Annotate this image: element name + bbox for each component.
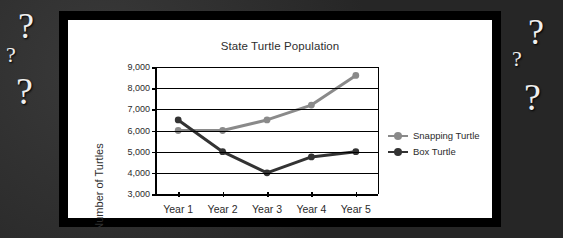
y-axis-tick-label: 3,000	[127, 189, 150, 199]
data-point-marker	[352, 72, 359, 79]
y-axis-tick-label: 8,000	[127, 83, 150, 93]
question-mark-icon: ?	[512, 48, 522, 70]
y-axis-tick-label: 4,000	[127, 168, 150, 178]
y-axis-tick-label: 9,000	[127, 62, 150, 72]
y-axis-tick-label: 7,000	[127, 104, 150, 114]
y-axis-tick	[152, 173, 157, 175]
question-mark-icon: ?	[528, 14, 544, 50]
x-axis-tick-label: Year 3	[252, 203, 282, 215]
x-axis-tick	[178, 192, 180, 197]
legend-label: Box Turtle	[413, 146, 456, 157]
legend-label: Snapping Turtle	[413, 130, 480, 141]
x-axis-tick-label: Year 1	[163, 203, 193, 215]
question-mark-icon: ?	[16, 72, 33, 110]
data-point-marker	[308, 154, 315, 161]
y-axis-tick-label: 6,000	[127, 126, 150, 136]
x-axis-tick	[356, 192, 358, 197]
y-axis-tick	[152, 67, 157, 69]
chart-legend: Snapping TurtleBox Turtle	[388, 130, 480, 162]
data-point-marker	[264, 117, 271, 124]
gridline	[156, 152, 378, 153]
question-mark-icon: ?	[18, 8, 34, 44]
chart-frame: State Turtle Population Number of Turtle…	[60, 12, 500, 226]
series-line	[178, 120, 356, 173]
question-mark-icon: ?	[6, 44, 16, 66]
x-axis-tick-label: Year 5	[341, 203, 371, 215]
y-axis-tick	[152, 131, 157, 133]
x-axis-tick-label: Year 4	[296, 203, 326, 215]
chart-card: State Turtle Population Number of Turtle…	[68, 20, 492, 218]
x-axis-tick	[223, 192, 225, 197]
gridline	[156, 173, 378, 174]
x-axis-tick	[311, 192, 313, 197]
y-axis-title-text: Number of Turtles	[93, 143, 105, 230]
data-point-marker	[175, 117, 182, 124]
gridline	[156, 88, 378, 89]
x-axis-tick-label: Year 2	[208, 203, 238, 215]
y-axis-tick	[152, 88, 157, 90]
chart-title: State Turtle Population	[68, 40, 492, 52]
legend-item: Box Turtle	[388, 146, 480, 157]
question-mark-icon: ?	[524, 78, 541, 116]
x-axis-tick	[267, 192, 269, 197]
y-axis-tick-label: 5,000	[127, 147, 150, 157]
legend-marker-icon	[388, 147, 408, 156]
data-point-marker	[308, 102, 315, 109]
y-axis-tick	[152, 109, 157, 111]
y-axis-title: Number of Turtles	[82, 70, 98, 190]
legend-item: Snapping Turtle	[388, 130, 480, 141]
y-axis-tick	[152, 152, 157, 154]
gridline	[156, 131, 378, 132]
gridline	[156, 67, 378, 68]
gridline	[156, 109, 378, 110]
legend-marker-icon	[388, 131, 408, 140]
plot-area: 3,0004,0005,0006,0007,0008,0009,000Year …	[156, 67, 378, 194]
